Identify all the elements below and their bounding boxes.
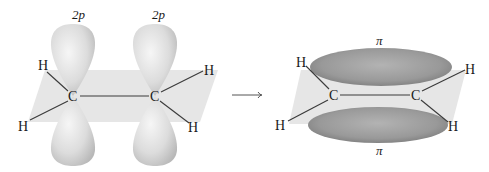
atom-c-right: C — [411, 88, 420, 103]
atom-h-bottom-right: H — [188, 120, 198, 135]
atom-h-top-right: H — [465, 62, 475, 77]
orbital-label-2p-right: 2p — [152, 7, 166, 22]
atom-h-bottom-left: H — [275, 118, 285, 133]
right-panel: C C H H H H π π — [275, 33, 475, 158]
reaction-arrow — [232, 92, 262, 98]
atom-c-left: C — [329, 88, 338, 103]
atom-h-bottom-right: H — [448, 119, 458, 134]
left-panel: C C H H H H 2p 2p — [18, 7, 218, 166]
orbital-label-pi-bottom: π — [376, 143, 383, 158]
atom-h-top-left: H — [38, 58, 48, 73]
pi-lobe-bottom — [308, 107, 448, 143]
atom-c-left: C — [68, 89, 77, 104]
pi-lobe-top — [310, 48, 452, 86]
atom-h-top-right: H — [204, 63, 214, 78]
atom-h-top-left: H — [296, 55, 306, 70]
atom-h-bottom-left: H — [18, 119, 28, 134]
orbital-label-2p-left: 2p — [72, 7, 86, 22]
atom-c-right: C — [150, 89, 159, 104]
pi-bond-formation-diagram: C C H H H H 2p 2p C C H H H H — [0, 0, 489, 172]
orbital-label-pi-top: π — [376, 33, 383, 48]
